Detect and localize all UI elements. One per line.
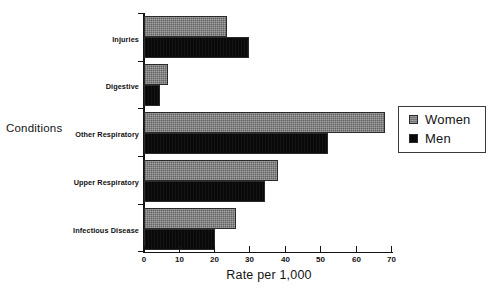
x-axis-tick: [391, 246, 392, 252]
legend-label: Women: [425, 113, 471, 126]
x-axis-tick: [285, 246, 286, 252]
x-axis-tick: [356, 246, 357, 252]
category-label-text: Other Respiratory: [40, 130, 139, 139]
x-axis-tick-label: 20: [210, 255, 219, 264]
x-axis-tick: [144, 246, 145, 252]
legend-item-men: Men: [409, 132, 451, 145]
bar-women-digestive: [144, 64, 168, 85]
bar-men-other-respiratory: [144, 133, 328, 154]
bar-women-injuries: [144, 16, 227, 37]
bar-women-other-respiratory: [144, 112, 385, 133]
x-axis-title: Rate per 1,000: [144, 268, 394, 282]
x-axis-tick-label: 30: [245, 255, 254, 264]
category-label-text: Upper Respiratory: [40, 178, 139, 187]
category-label-other-respiratory: Other Respiratory: [40, 130, 139, 140]
x-axis-tick: [179, 246, 180, 252]
category-label-infectious-disease: Infectious Disease: [40, 226, 139, 236]
chart-legend: Women Men: [398, 106, 486, 153]
x-axis-tick-label: 0: [142, 255, 146, 264]
bar-men-injuries: [144, 37, 249, 58]
category-label-upper-respiratory: Upper Respiratory: [40, 178, 139, 188]
bar-chart: Conditions Injuries Digestive Other Resp…: [0, 0, 493, 295]
legend-item-women: Women: [409, 113, 471, 126]
category-label-digestive: Digestive: [40, 82, 139, 92]
x-axis-tick-label: 60: [352, 255, 361, 264]
category-label-text: Injuries: [40, 35, 139, 44]
x-axis-tick: [214, 246, 215, 252]
category-label-injuries: Injuries: [40, 35, 139, 45]
bar-women-upper-respiratory: [144, 160, 278, 181]
x-axis-tick-label: 40: [281, 255, 290, 264]
bar-men-upper-respiratory: [144, 181, 265, 202]
men-swatch-icon: [409, 134, 418, 143]
x-axis-tick-label: 50: [316, 255, 325, 264]
bar-women-infectious-disease: [144, 208, 236, 229]
x-axis-tick: [320, 246, 321, 252]
x-axis-tick: [249, 246, 250, 252]
women-swatch-icon: [409, 115, 418, 124]
plot-area: [144, 14, 392, 252]
category-label-text: Infectious Disease: [40, 226, 139, 235]
bar-men-digestive: [144, 85, 160, 106]
category-label-text: Digestive: [40, 82, 139, 91]
x-axis-tick-label: 70: [387, 255, 396, 264]
x-axis-tick-label: 10: [175, 255, 184, 264]
legend-label: Men: [425, 132, 451, 145]
